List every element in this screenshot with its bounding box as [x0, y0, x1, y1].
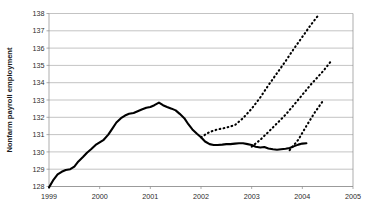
y-tick-label-135: 135: [33, 61, 45, 70]
x-tick-label-1999: 1999: [41, 192, 57, 201]
x-tick-label-2003: 2003: [244, 192, 260, 201]
y-tick-label-137: 137: [33, 26, 45, 35]
employment-forecast-chart: 128129130131132133134135136137138 199920…: [0, 0, 381, 211]
y-tick-label-134: 134: [33, 78, 45, 87]
x-tick-label-2004: 2004: [294, 192, 310, 201]
x-tick-label-2002: 2002: [193, 192, 209, 201]
y-tick-label-132: 132: [33, 113, 45, 122]
y-axis-title: Nonfarm payroll employment: [5, 47, 14, 153]
chart-screenshot: 128129130131132133134135136137138 199920…: [0, 0, 381, 211]
chart-background: [0, 0, 381, 211]
x-tick-label-2000: 2000: [92, 192, 108, 201]
y-tick-label-133: 133: [33, 96, 45, 105]
y-tick-label-129: 129: [33, 165, 45, 174]
x-tick-label-2005: 2005: [345, 192, 361, 201]
y-tick-label-131: 131: [33, 130, 45, 139]
y-tick-label-138: 138: [33, 9, 45, 18]
x-tick-label-2001: 2001: [142, 192, 158, 201]
y-tick-label-128: 128: [33, 182, 45, 191]
y-tick-label-130: 130: [33, 148, 45, 157]
y-tick-label-136: 136: [33, 44, 45, 53]
